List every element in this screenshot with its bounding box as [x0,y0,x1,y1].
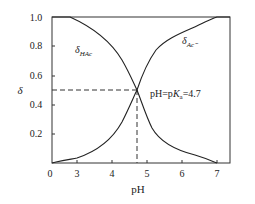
x-axis-title: pH [131,183,145,195]
x-tick-label: 0 [48,168,53,179]
chart-canvas: 0.2 0.4 0.6 0.8 1.0 0 3 4 5 6 7 pH δ δHA… [0,0,255,204]
x-tick-label: 5 [145,168,150,179]
y-tick-label: 0.6 [30,70,43,81]
x-tick-label: 6 [180,168,185,179]
y-tick-label: 1.0 [30,12,43,23]
x-tick-label: 4 [110,168,115,179]
x-tick-label: 3 [75,168,80,179]
series-label-ac: δAc⁻ [182,35,199,49]
pka-annotation: pH=pKa=4.7 [150,88,201,101]
series-label-hac: δHAc [75,44,93,58]
y-axis-title: δ [17,84,23,96]
x-tick-label: 7 [215,168,220,179]
y-tick-label: 0.2 [30,128,43,139]
y-tick-label: 0.4 [30,99,43,110]
y-tick-label: 0.8 [30,40,43,51]
